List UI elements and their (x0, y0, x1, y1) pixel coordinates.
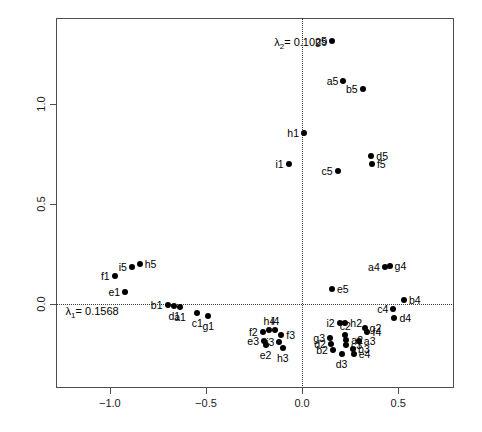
data-point-label-c1: c1 (192, 318, 203, 328)
scatter-plot-figure: g5a5b5h1i1c5d5f5i5h5f1a4g4e5e1b4c4b1d1a1… (0, 0, 482, 432)
data-point-label-a4: a4 (368, 262, 380, 272)
data-point-f5 (369, 161, 375, 167)
data-point-i1 (286, 161, 292, 167)
lambda2-annotation: λ2= 0.1029 (274, 36, 327, 51)
data-point-g1 (205, 313, 211, 319)
data-point-c3 (343, 342, 349, 348)
data-point-g5 (329, 38, 335, 44)
data-point-b4 (401, 297, 407, 303)
data-point-label-f3: f3 (286, 330, 295, 340)
x-axis-tick (206, 388, 207, 394)
data-point-label-h3: h3 (277, 353, 289, 363)
x-axis-tick (110, 388, 111, 394)
data-point-label-b4: b4 (409, 295, 421, 305)
data-point-i3 (276, 339, 282, 345)
y-axis-tick-label: 1.0 (35, 96, 47, 111)
data-point-h3 (280, 345, 286, 351)
lambda-value: = 0.1029 (284, 36, 327, 48)
data-point-label-d4: d4 (399, 313, 411, 323)
data-point-h5 (137, 261, 143, 267)
data-point-label-h5: h5 (145, 259, 157, 269)
data-point-label-a1: a1 (174, 312, 186, 322)
y-axis-tick (50, 304, 56, 305)
data-point-d5 (368, 153, 374, 159)
data-point-label-d3: d3 (336, 359, 348, 369)
data-point-b2 (330, 347, 336, 353)
y-axis-tick (50, 204, 56, 205)
data-point-e1 (122, 289, 128, 295)
data-point-label-f5: f5 (377, 159, 386, 169)
vertical-zero-line (302, 18, 303, 388)
y-axis-tick-label: 0.5 (35, 196, 47, 211)
data-point-i5 (129, 264, 135, 270)
data-point-label-i1: i1 (275, 159, 283, 169)
data-point-c5 (335, 168, 341, 174)
data-point-b1 (165, 302, 171, 308)
data-point-label-g4: g4 (395, 261, 407, 271)
plot-area: g5a5b5h1i1c5d5f5i5h5f1a4g4e5e1b4c4b1d1a1… (56, 18, 454, 388)
y-axis-tick (50, 104, 56, 105)
data-point-g4 (387, 263, 393, 269)
x-axis-tick-label: −0.5 (195, 397, 217, 409)
data-point-e4 (351, 351, 357, 357)
data-point-label-i2: i2 (326, 318, 334, 328)
data-point-d4 (391, 315, 397, 321)
data-point-d3 (339, 351, 345, 357)
data-point-f3 (278, 332, 284, 338)
data-point-label-b5: b5 (346, 84, 358, 94)
data-point-label-e1: e1 (109, 287, 121, 297)
data-point-label-i4: i4 (271, 316, 279, 326)
data-point-label-b1: b1 (151, 300, 163, 310)
x-axis-tick (302, 388, 303, 394)
data-point-label-i3: i3 (266, 337, 274, 347)
data-point-c1 (194, 310, 200, 316)
x-axis-tick-label: 0.5 (391, 397, 406, 409)
x-axis-tick (398, 388, 399, 394)
lambda1-annotation: λ1= 0.1568 (66, 305, 119, 320)
data-point-b5 (360, 86, 366, 92)
data-point-label-a5: a5 (327, 76, 339, 86)
data-point-label-c4: c4 (377, 304, 388, 314)
data-point-label-e3: e3 (247, 336, 259, 346)
x-axis-tick-label: −1.0 (99, 397, 121, 409)
data-point-label-g1: g1 (202, 321, 214, 331)
data-point-f1 (112, 273, 118, 279)
data-point-f2 (260, 329, 266, 335)
data-point-label-h2: h2 (350, 318, 362, 328)
data-point-a1 (177, 304, 183, 310)
data-point-label-i5: i5 (119, 262, 127, 272)
data-point-e5 (329, 286, 335, 292)
data-point-c4 (390, 306, 396, 312)
data-point-label-h1: h1 (287, 128, 299, 138)
data-point-label-e4: e4 (359, 349, 371, 359)
data-point-label-c2: c2 (340, 321, 351, 331)
data-point-label-c5: c5 (322, 166, 333, 176)
data-point-label-e2: e2 (260, 350, 272, 360)
data-point-i4 (272, 327, 278, 333)
data-point-h1 (301, 130, 307, 136)
x-axis-tick-label: 0.0 (294, 397, 309, 409)
data-point-label-b2: b2 (316, 345, 328, 355)
data-point-label-f1: f1 (101, 271, 110, 281)
y-axis-tick-label: 0.0 (35, 296, 47, 311)
lambda-value: = 0.1568 (76, 305, 119, 317)
data-point-label-e5: e5 (337, 284, 349, 294)
